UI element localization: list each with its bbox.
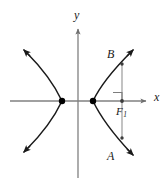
y-axis-label: y <box>74 9 79 21</box>
right-branch-upper-arrow-icon <box>127 50 134 57</box>
x-axis-label: x <box>154 91 159 103</box>
right-vertex-point <box>90 98 96 104</box>
focus-label-subscript: 1 <box>123 110 127 119</box>
hyperbola-figure: y x B A F1 <box>0 0 168 188</box>
point-b-label: B <box>107 48 114 60</box>
right-branch-lower-arrow-icon <box>127 149 134 156</box>
point-a-label: A <box>107 150 114 162</box>
left-branch-lower-arrow-icon <box>24 146 31 153</box>
left-branch-upper-arrow-icon <box>24 50 31 57</box>
chord-endpoint-a-point <box>120 136 123 139</box>
focus-label-letter: F <box>116 105 123 117</box>
focus-point <box>120 99 124 103</box>
hyperbola-right-branch <box>93 52 131 153</box>
left-vertex-point <box>59 98 65 104</box>
chord-endpoint-b-point <box>120 62 123 65</box>
figure-canvas <box>0 0 168 188</box>
focus-label: F1 <box>116 106 126 117</box>
